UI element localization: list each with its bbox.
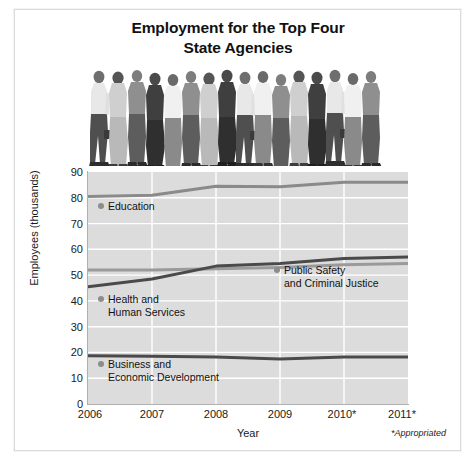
series-label-business-and-economic-development: Business and Economic Development xyxy=(98,358,219,383)
series-label-public-safety-line-2: and Criminal Justice xyxy=(284,277,379,290)
series-label-education-line-1: Education xyxy=(108,200,155,212)
series-label-business-line-1: Business and xyxy=(108,358,171,370)
series-label-health-line-1: Health and xyxy=(108,293,159,305)
x-tick-2006: 2006 xyxy=(78,408,102,420)
x-tick-2010: 2010* xyxy=(328,408,357,420)
title-line-1: Employment for the Top Four xyxy=(38,18,438,38)
series-label-education: Education xyxy=(98,200,155,213)
y-tick-30: 30 xyxy=(53,321,83,333)
series-label-business-line-2: Economic Development xyxy=(108,371,219,384)
series-label-public-safety-and-criminal-justice: Public Safety and Criminal Justice xyxy=(274,264,379,289)
y-tick-20: 20 xyxy=(53,346,83,358)
y-axis-line xyxy=(87,171,88,405)
x-tick-2011: 2011* xyxy=(388,408,416,420)
y-tick-60: 60 xyxy=(53,243,83,255)
x-axis-tick-labels: 2006 2007 2008 2009 2010* 2011* xyxy=(88,408,408,424)
x-tick-2008: 2008 xyxy=(204,408,228,420)
y-tick-50: 50 xyxy=(53,269,83,281)
y-tick-90: 90 xyxy=(53,166,83,178)
x-tick-2009: 2009 xyxy=(268,408,292,420)
y-tick-10: 10 xyxy=(53,372,83,384)
page-title: Employment for the Top Four State Agenci… xyxy=(38,18,438,58)
series-marker-dot-business xyxy=(98,361,104,367)
series-label-health-and-human-services: Health and Human Services xyxy=(98,293,185,318)
series-label-public-safety-line-1: Public Safety xyxy=(284,264,345,276)
series-line-education xyxy=(88,182,408,196)
y-tick-40: 40 xyxy=(53,295,83,307)
series-marker-dot-health xyxy=(98,296,104,302)
crowd-of-office-workers-illustration xyxy=(88,62,388,166)
y-axis-tick-labels: 0 10 20 30 40 50 60 70 80 90 xyxy=(50,172,83,404)
x-tick-2007: 2007 xyxy=(140,408,164,420)
appropriated-footnote: *Appropriated xyxy=(391,428,446,438)
y-tick-80: 80 xyxy=(53,192,83,204)
series-label-health-line-2: Human Services xyxy=(108,306,185,319)
x-axis-line xyxy=(87,404,409,405)
title-line-2: State Agencies xyxy=(38,38,438,58)
chart-figure: Employment for the Top Four State Agenci… xyxy=(0,0,474,463)
x-axis-title: Year xyxy=(88,427,408,439)
series-marker-dot-education xyxy=(98,203,104,209)
series-marker-dot-public-safety xyxy=(274,267,280,273)
y-tick-70: 70 xyxy=(53,218,83,230)
y-axis-title: Employees (thousands) xyxy=(28,158,40,298)
